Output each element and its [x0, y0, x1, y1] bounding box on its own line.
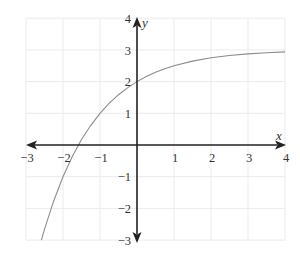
x-tick-label: −2 — [57, 151, 70, 165]
function-plot: −3 −2 −1 1 2 3 4 4 3 2 1 −1 −2 −3 y x — [0, 0, 300, 259]
grid — [26, 18, 285, 240]
x-axis — [26, 141, 286, 150]
y-tick-label: −3 — [118, 234, 131, 248]
x-tick-label: 1 — [172, 151, 178, 165]
y-tick-label: 1 — [125, 107, 131, 121]
x-tick-label: −3 — [20, 151, 33, 165]
y-tick-label: 4 — [125, 12, 132, 26]
x-axis-name: x — [275, 128, 282, 143]
x-tick-labels: −3 −2 −1 1 2 3 4 — [20, 151, 290, 165]
x-tick-label: −1 — [94, 151, 107, 165]
x-tick-label: 3 — [246, 151, 252, 165]
y-tick-label: −1 — [118, 170, 131, 184]
x-tick-label: 2 — [209, 151, 215, 165]
y-tick-label: 2 — [125, 75, 131, 89]
y-axis-name: y — [140, 15, 148, 30]
y-axis — [133, 17, 142, 243]
y-tick-label: 3 — [125, 44, 131, 58]
x-tick-label: 4 — [283, 151, 290, 165]
y-tick-labels: 4 3 2 1 −1 −2 −3 — [118, 12, 132, 248]
y-tick-label: −2 — [118, 202, 131, 216]
